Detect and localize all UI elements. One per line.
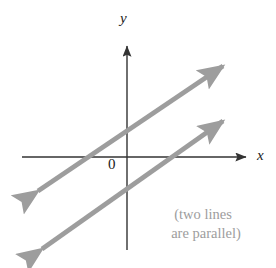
parallel-annotation: (two lines are parallel) xyxy=(138,205,268,243)
upper-line xyxy=(38,66,223,191)
annotation-line-1: (two lines xyxy=(138,205,268,224)
x-axis-label: x xyxy=(257,148,264,163)
parallel-lines-figure: ) y x 0 (two lines are parallel) xyxy=(0,0,276,268)
annotation-line-2: are parallel) xyxy=(138,224,268,243)
origin-label: 0 xyxy=(108,157,116,172)
y-axis-label: y xyxy=(120,11,127,26)
